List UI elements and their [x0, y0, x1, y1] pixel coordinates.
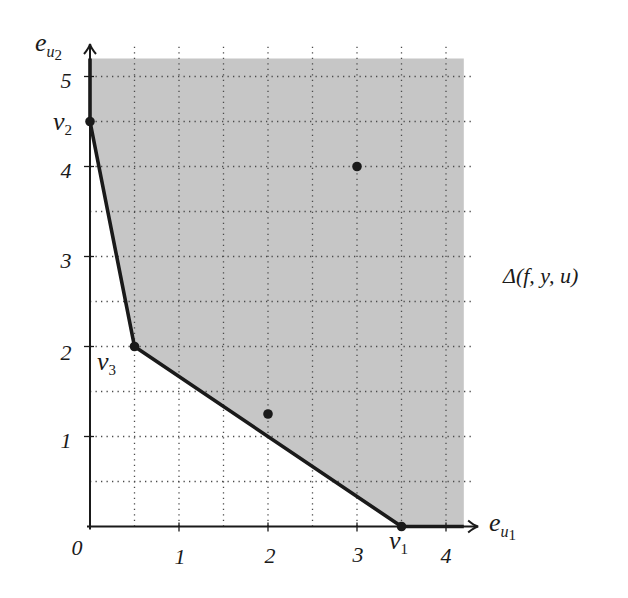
origin-label: 0	[72, 535, 83, 560]
y-tick-label-1: 1	[61, 428, 72, 453]
region-label: Δ(f, y, u)	[502, 263, 578, 288]
x-tick-label-4: 4	[441, 543, 452, 568]
vertex-dot-v2	[85, 117, 95, 127]
data-point	[352, 162, 362, 172]
y-tick-label-5: 5	[61, 68, 72, 93]
y-tick-label-4: 4	[61, 158, 72, 183]
vertex-dot-v3	[130, 342, 140, 352]
x-tick-label-3: 3	[352, 542, 364, 567]
x-tick-label-1: 1	[175, 544, 186, 569]
newton-polygon-diagram: eu2 eu1 1 2 3 4 5 0 1 2 3 4 v1 v2 v3 Δ(f…	[0, 0, 628, 598]
y-tick-label-3: 3	[60, 248, 72, 273]
y-tick-label-2: 2	[61, 340, 72, 365]
x-tick-label-2: 2	[265, 543, 276, 568]
data-point	[263, 409, 273, 419]
